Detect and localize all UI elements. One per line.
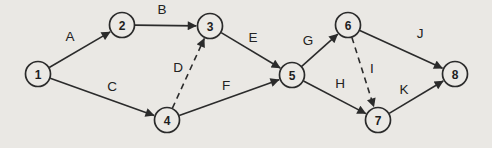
edges-layer [49,25,443,115]
edge-K-line [389,81,443,113]
node-8: 8 [443,62,468,87]
node-6: 6 [336,13,361,38]
node-7-label: 7 [375,114,382,128]
edge-B-line [135,25,196,26]
network-diagram: 12345678 ABCDEFGHIJK [0,0,492,148]
nodes-layer: 12345678 [26,13,468,133]
edge-K-label: K [399,82,408,97]
edge-D-label: D [173,60,183,75]
edge-I-label: I [370,61,374,76]
node-4-label: 4 [164,114,171,128]
node-3: 3 [198,14,223,39]
node-2-label: 2 [119,19,126,33]
edge-C-label: C [107,79,117,94]
node-8-label: 8 [452,68,459,82]
node-5: 5 [280,63,305,88]
edge-G-label: G [303,33,314,48]
edge-A-line [49,32,110,68]
node-4: 4 [155,108,180,133]
node-5-label: 5 [289,69,296,83]
node-1-label: 1 [35,68,42,82]
edge-B-label: B [157,2,166,17]
node-2: 2 [110,13,135,38]
network-diagram-canvas: 12345678 ABCDEFGHIJK [0,0,492,148]
node-6-label: 6 [345,19,352,33]
edge-J-label: J [417,26,424,41]
node-3-label: 3 [207,20,214,34]
edge-F-label: F [222,78,230,93]
edge-C-line [50,78,154,115]
node-7: 7 [366,108,391,133]
node-1: 1 [26,62,51,87]
edge-H-label: H [335,76,345,91]
edge-A-label: A [65,29,74,44]
edge-E-label: E [248,30,257,45]
